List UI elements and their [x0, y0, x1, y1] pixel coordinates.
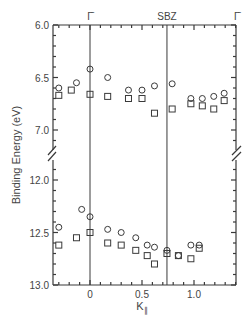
- circle-marker: [125, 87, 131, 93]
- circle-marker: [56, 224, 62, 230]
- circle-marker: [133, 235, 139, 241]
- circle-marker: [211, 93, 217, 99]
- labels: Binding Energy (eV) K∥ 6.06.57.012.012.5…: [10, 11, 241, 315]
- y-tick-label: 6.5: [35, 73, 49, 84]
- square-marker: [144, 253, 150, 259]
- circle-marker: [73, 80, 79, 86]
- square-marker: [125, 96, 131, 102]
- square-marker: [133, 247, 139, 253]
- square-marker: [56, 242, 62, 248]
- square-marker: [68, 87, 74, 93]
- x-tick-label: 0.5: [135, 289, 149, 300]
- data-markers: [56, 66, 227, 267]
- square-marker: [151, 261, 157, 267]
- circle-marker: [175, 253, 181, 259]
- square-marker: [118, 242, 124, 248]
- y-axis-title: Binding Energy (eV): [10, 106, 22, 204]
- x-tick-label: 1.0: [187, 289, 201, 300]
- square-marker: [169, 106, 175, 112]
- circle-marker: [169, 81, 175, 87]
- x-axis-title: K∥: [136, 300, 147, 315]
- circle-marker: [151, 244, 157, 250]
- top-symmetry-label: Γ̄: [87, 11, 95, 22]
- y-tick-label: 7.0: [35, 125, 49, 136]
- circle-marker: [118, 230, 124, 236]
- circle-marker: [151, 83, 157, 89]
- y-tick-label: 12.0: [30, 175, 50, 186]
- y-tick-label: 12.5: [30, 228, 50, 239]
- circle-marker: [199, 96, 205, 102]
- square-marker: [139, 96, 145, 102]
- square-marker: [221, 98, 227, 104]
- square-marker: [105, 240, 111, 246]
- circle-marker: [105, 226, 111, 232]
- square-marker: [199, 103, 205, 109]
- band-dispersion-chart: Binding Energy (eV) K∥ 6.06.57.012.012.5…: [0, 0, 252, 323]
- y-tick-label: 6.0: [35, 20, 49, 31]
- square-marker: [211, 106, 217, 112]
- circle-marker: [188, 242, 194, 248]
- square-marker: [105, 93, 111, 99]
- x-tick-label: 0: [87, 289, 93, 300]
- square-marker: [73, 235, 79, 241]
- top-symmetry-label: SBZ: [157, 11, 176, 22]
- circle-marker: [139, 87, 145, 93]
- circle-marker: [79, 206, 85, 212]
- top-symmetry-label: Γ̄: [234, 11, 242, 22]
- circle-marker: [221, 90, 227, 96]
- square-marker: [56, 92, 62, 98]
- circle-marker: [105, 75, 111, 81]
- square-marker: [151, 110, 157, 116]
- square-marker: [188, 256, 194, 262]
- circle-marker: [56, 85, 62, 91]
- circle-marker: [144, 242, 150, 248]
- y-tick-label: 13.0: [30, 280, 50, 291]
